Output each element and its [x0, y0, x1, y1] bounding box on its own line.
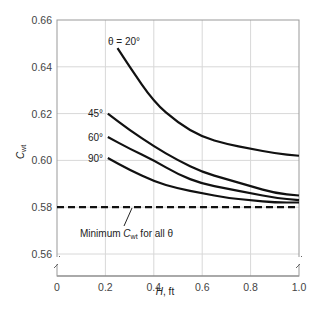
y-tick-label: 0.60 — [32, 154, 53, 166]
x-tick-label: 0.8 — [243, 281, 258, 293]
x-tick-label: 0.2 — [98, 281, 113, 293]
x-tick-label: 1.0 — [292, 281, 307, 293]
y-tick-label: 0.56 — [32, 248, 53, 260]
x-tick-label: 0 — [54, 281, 60, 293]
tick-labels: 00.20.40.60.81.00.560.580.600.620.640.66 — [32, 14, 307, 293]
chart: 00.20.40.60.81.00.560.580.600.620.640.66… — [0, 0, 317, 314]
y-axis-label: Cwt — [15, 145, 27, 159]
annotation-text: Minimum Cwt for all θ — [80, 228, 174, 240]
x-axis-label: H, ft — [156, 286, 175, 297]
annotation-leader — [124, 208, 132, 226]
curve-label: θ = 20° — [108, 36, 140, 47]
y-tick-label: 0.64 — [32, 61, 53, 73]
y-tick-label: 0.58 — [32, 201, 53, 213]
x-tick-label: 0.6 — [195, 281, 210, 293]
y-tick-label: 0.62 — [32, 108, 53, 120]
curves — [108, 48, 299, 202]
curve-label: 45° — [88, 108, 103, 119]
curve-label: 60° — [88, 132, 103, 143]
y-tick-label: 0.66 — [32, 14, 53, 26]
curve-label: 90° — [88, 153, 103, 164]
curve-labels: θ = 20°45°60°90° — [88, 36, 140, 164]
